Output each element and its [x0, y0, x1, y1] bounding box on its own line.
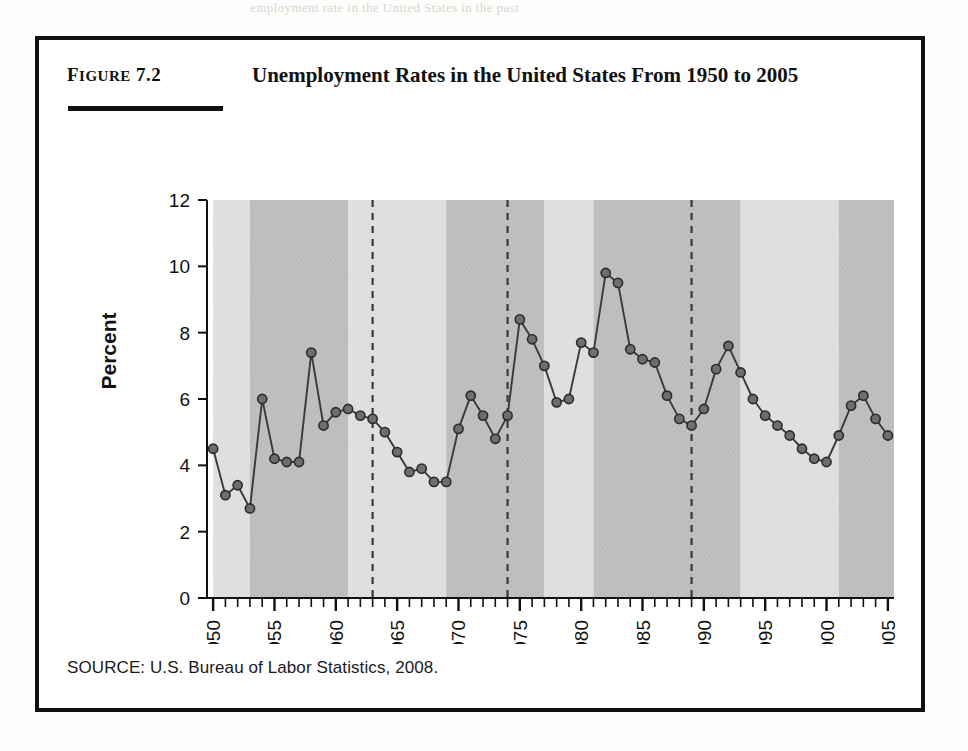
data-point [491, 434, 500, 443]
data-point [245, 504, 254, 513]
x-axis-ticks: 1950195519601965197019751980198519901995… [203, 598, 899, 644]
data-point [380, 428, 389, 437]
x-tick-label: 2005 [878, 620, 899, 644]
data-point [564, 394, 573, 403]
x-tick-label: 1950 [203, 620, 224, 644]
x-tick-label: 1985 [633, 620, 654, 644]
figure-source: SOURCE: U.S. Bureau of Labor Statistics,… [67, 658, 438, 678]
data-point [258, 394, 267, 403]
x-tick-label: 1960 [326, 620, 347, 644]
y-tick-label: 2 [179, 522, 190, 543]
data-point [736, 368, 745, 377]
data-point [478, 411, 487, 420]
y-tick-label: 4 [179, 455, 190, 476]
paper-texture [207, 200, 894, 598]
y-axis-ticks: 024681012 [169, 190, 207, 609]
figure-label-prefix: F [67, 64, 79, 85]
data-point [209, 444, 218, 453]
data-point [662, 391, 671, 400]
y-tick-label: 10 [169, 256, 190, 277]
chart-area: Percent 02468101219501955196019651970197… [67, 144, 907, 644]
data-point [417, 464, 426, 473]
y-tick-label: 6 [179, 389, 190, 410]
data-point [846, 401, 855, 410]
data-point [724, 341, 733, 350]
figure-label-rest: IGURE [79, 68, 131, 84]
data-point [331, 408, 340, 417]
figure-number: 7.2 [136, 64, 161, 85]
data-point [528, 335, 537, 344]
data-point [822, 457, 831, 466]
data-point [650, 358, 659, 367]
data-point [601, 268, 610, 277]
data-point [294, 457, 303, 466]
data-point [638, 355, 647, 364]
data-point [393, 447, 402, 456]
data-point [699, 404, 708, 413]
data-point [797, 444, 806, 453]
data-point [773, 421, 782, 430]
data-point [515, 315, 524, 324]
figure-label: FIGURE 7.2 [67, 64, 161, 86]
data-point [540, 361, 549, 370]
data-point [613, 278, 622, 287]
data-point [687, 421, 696, 430]
x-tick-label: 2000 [817, 620, 838, 644]
data-point [307, 348, 316, 357]
data-point [282, 457, 291, 466]
data-point [405, 467, 414, 476]
data-point [454, 424, 463, 433]
y-tick-label: 0 [179, 588, 190, 609]
y-tick-label: 8 [179, 323, 190, 344]
data-point [343, 404, 352, 413]
y-tick-label: 12 [169, 190, 190, 211]
data-point [834, 431, 843, 440]
data-point [221, 491, 230, 500]
x-tick-label: 1995 [755, 620, 776, 644]
x-tick-label: 1980 [571, 620, 592, 644]
data-point [270, 454, 279, 463]
figure-frame: FIGURE 7.2 Unemployment Rates in the Uni… [35, 36, 925, 712]
unemployment-line-chart: 0246810121950195519601965197019751980198… [67, 144, 907, 644]
data-point [748, 394, 757, 403]
data-point [589, 348, 598, 357]
data-point [503, 411, 512, 420]
x-tick-label: 1965 [387, 620, 408, 644]
figure-title: Unemployment Rates in the United States … [252, 62, 892, 89]
x-tick-label: 1975 [510, 620, 531, 644]
data-point [442, 477, 451, 486]
data-point [883, 431, 892, 440]
x-tick-label: 1990 [694, 620, 715, 644]
page-bleed-text: employment rate in the United States in … [250, 0, 720, 26]
figure-rule [68, 106, 223, 111]
data-point [626, 345, 635, 354]
x-tick-label: 1970 [448, 620, 469, 644]
data-point [859, 391, 868, 400]
data-point [319, 421, 328, 430]
data-point [577, 338, 586, 347]
data-point [368, 414, 377, 423]
figure-header: FIGURE 7.2 Unemployment Rates in the Uni… [67, 62, 897, 132]
data-point [552, 398, 561, 407]
data-point [429, 477, 438, 486]
data-point [785, 431, 794, 440]
data-point [810, 454, 819, 463]
x-tick-label: 1955 [264, 620, 285, 644]
data-point [871, 414, 880, 423]
data-point [466, 391, 475, 400]
data-point [356, 411, 365, 420]
data-point [675, 414, 684, 423]
data-point [712, 365, 721, 374]
data-point [233, 481, 242, 490]
data-point [761, 411, 770, 420]
